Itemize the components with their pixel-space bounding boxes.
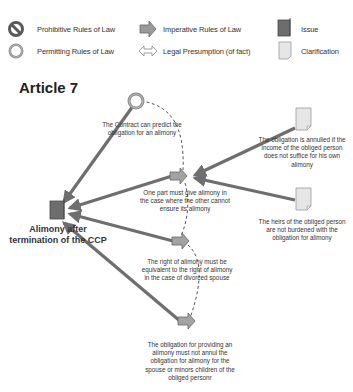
legend-imperative-arrow-icon bbox=[140, 21, 156, 37]
caption-line: One part must give alimony in bbox=[130, 189, 240, 197]
permitting-caption: The Contract can predict the obligation … bbox=[92, 121, 192, 137]
issue-node[interactable] bbox=[50, 199, 64, 219]
caption-line: are not burdened with the bbox=[252, 226, 352, 234]
caption-line: alimony must not annul the bbox=[134, 349, 246, 357]
caption-line: obligation for alimony for the bbox=[134, 357, 246, 365]
caption-line: obliged personr bbox=[134, 374, 246, 382]
caption-line: The obligation for providing an bbox=[134, 341, 246, 349]
legend-permitting-icon bbox=[10, 45, 22, 57]
caption-line: The right of alimony must be bbox=[128, 258, 246, 266]
article-title: Article 7 bbox=[19, 79, 78, 96]
caption-line: spouse or minors children of the bbox=[134, 366, 246, 374]
imperative1-caption: One part must give alimony in the case w… bbox=[130, 189, 240, 214]
legend-label-imperative: Imperative Rules of Law bbox=[163, 25, 241, 34]
clarification2-caption: The heirs of the obliged person are not … bbox=[252, 218, 352, 243]
caption-line: The Contract can predict the bbox=[92, 121, 192, 129]
caption-line: obligation for alimony bbox=[252, 234, 352, 242]
caption-line: does not suffice for his own bbox=[252, 152, 352, 160]
permitting-node[interactable] bbox=[129, 94, 143, 108]
legend-label-prohibitive: Prohibitive Rules of Law bbox=[37, 25, 115, 34]
caption-line: in the case of divorced spouse bbox=[128, 274, 246, 282]
caption-line: obligation for an alimony bbox=[92, 129, 192, 137]
legend-label-permitting: Permitting Rules of Law bbox=[37, 47, 114, 56]
legend-issue-icon bbox=[278, 18, 290, 36]
caption-line: ensure its alimony bbox=[130, 205, 240, 213]
imperative-node-2[interactable] bbox=[172, 233, 189, 249]
clarification-node-2[interactable] bbox=[296, 188, 311, 210]
legend-label-clarification: Clarification bbox=[301, 47, 339, 56]
caption-line: equivalent to the right of alimony bbox=[128, 266, 246, 274]
caption-line: The obligation is annulled if the bbox=[252, 136, 352, 144]
imperative-node-3[interactable] bbox=[178, 313, 195, 329]
issue-label-line: termination of the CCP bbox=[2, 235, 114, 246]
clarification-node-1[interactable] bbox=[296, 108, 311, 130]
caption-line: income of the obliged person bbox=[252, 144, 352, 152]
imperative3-caption: The obligation for providing an alimony … bbox=[134, 341, 246, 382]
legend-label-issue: Issue bbox=[301, 25, 318, 34]
issue-label-line: Alimony after bbox=[2, 224, 114, 235]
legend-label-legal-presumption: Legal Presumption (of fact) bbox=[163, 47, 250, 56]
caption-line: alimony bbox=[252, 161, 352, 169]
legend-clarification-icon bbox=[279, 42, 291, 59]
imperative2-caption: The right of alimony must be equivalent … bbox=[128, 258, 246, 283]
issue-label: Alimony after termination of the CCP bbox=[2, 224, 114, 246]
legend-prohibitive-icon bbox=[10, 23, 23, 36]
imperative-node-1[interactable] bbox=[170, 168, 187, 184]
legend-legal-presumption-icon bbox=[139, 46, 157, 56]
caption-line: The heirs of the obliged person bbox=[252, 218, 352, 226]
caption-line: the case where the other cannot bbox=[130, 197, 240, 205]
clarification1-caption: The obligation is annulled if the income… bbox=[252, 136, 352, 169]
